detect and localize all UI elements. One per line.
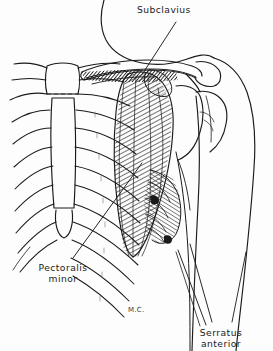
label-pectoralis-minor-line1: Pectoralis [27, 262, 99, 273]
label-pectoralis-minor-line2: minor [27, 273, 99, 284]
label-serratus-anterior-line2: anterior [184, 338, 258, 349]
label-serratus-anterior: Serratus anterior [184, 327, 258, 349]
leader-serratus-anterior-3 [176, 252, 200, 326]
label-subclavius: Subclavius [137, 4, 191, 15]
anatomy-drawing [0, 0, 273, 351]
arm-contour [176, 58, 255, 351]
label-pectoralis-minor: Pectoralis minor [27, 262, 99, 284]
anatomical-illustration: Subclavius Pectoralis minor Serratus ant… [0, 0, 273, 351]
leader-serratus-anterior-4 [232, 252, 246, 322]
sternum [46, 63, 80, 238]
label-serratus-anterior-line1: Serratus [184, 327, 258, 338]
artist-initials: M.C. [128, 306, 145, 314]
